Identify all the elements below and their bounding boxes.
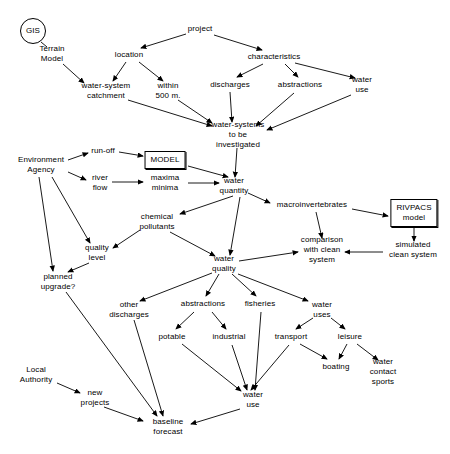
node-water-quality[interactable]: water quality bbox=[212, 254, 236, 274]
node-industrial[interactable]: industrial bbox=[212, 332, 245, 342]
edge-water-quality-to-abstractions-bot bbox=[206, 274, 219, 296]
node-river-flow[interactable]: river flow bbox=[92, 173, 108, 193]
node-abstractions-bot[interactable]: abstractions bbox=[181, 299, 225, 309]
edge-macroinvertebrates-to-rivpacs-model bbox=[352, 209, 388, 216]
node-planned-upgrade[interactable]: planned upgrade? bbox=[41, 272, 76, 292]
node-fisheries[interactable]: fisheries bbox=[245, 299, 276, 309]
edge-chemical-pollutants-to-water-quality bbox=[170, 232, 215, 256]
edge-project-to-characteristics bbox=[214, 35, 262, 50]
edge-local-authority-to-new-projects bbox=[57, 383, 80, 393]
edge-water-uses-to-leisure bbox=[331, 318, 345, 329]
edge-environment-agency-to-river-flow bbox=[68, 172, 86, 180]
edge-water-quality-to-water-uses bbox=[238, 274, 308, 301]
node-model[interactable]: MODEL bbox=[145, 151, 186, 169]
node-water-uses[interactable]: water uses bbox=[312, 300, 332, 320]
edge-water-uses-to-transport bbox=[296, 318, 313, 329]
edge-project-to-location bbox=[141, 34, 186, 48]
edge-potable-to-water-use-bot bbox=[182, 344, 241, 391]
node-abstractions-top[interactable]: abstractions bbox=[278, 80, 322, 90]
node-water-quantity[interactable]: water quantity bbox=[220, 176, 249, 196]
node-water-systems-investigated[interactable]: water-systems to be investigated bbox=[212, 120, 265, 150]
edge-characteristics-to-water-use-top bbox=[295, 63, 355, 78]
node-quality-level[interactable]: quality level bbox=[85, 243, 109, 263]
edge-location-to-within-500m bbox=[139, 62, 163, 81]
edge-industrial-to-water-use-bot bbox=[232, 345, 247, 390]
node-macroinvertebrates[interactable]: macroinvertebrates bbox=[277, 200, 347, 210]
node-water-use-bot[interactable]: water use bbox=[243, 390, 263, 410]
node-chemical-pollutants[interactable]: chemical pollutants bbox=[139, 212, 174, 232]
node-location[interactable]: location bbox=[115, 50, 143, 60]
edge-water-use-top-to-water-systems-investigated bbox=[267, 95, 351, 130]
node-local-authority[interactable]: Local Authority bbox=[20, 365, 52, 385]
edge-water-quality-to-comparison-clean bbox=[239, 252, 298, 261]
edge-transport-to-boating bbox=[300, 344, 327, 359]
node-new-projects[interactable]: new projects bbox=[81, 388, 110, 408]
edge-leisure-to-boating bbox=[339, 344, 347, 359]
node-gis[interactable]: GIS bbox=[20, 18, 46, 44]
diagram-canvas: GISTerrain Modelprojectlocationcharacter… bbox=[0, 0, 450, 454]
edge-water-use-bot-to-baseline-forecast bbox=[191, 409, 240, 424]
node-rivpacs-model[interactable]: RIVPACS model bbox=[390, 199, 437, 227]
node-other-discharges[interactable]: other discharges bbox=[109, 300, 149, 320]
node-baseline-forecast[interactable]: baseline forecast bbox=[153, 417, 184, 437]
edge-chemical-pollutants-to-quality-level bbox=[113, 230, 140, 248]
edge-water-quality-to-other-discharges bbox=[140, 273, 212, 301]
edge-environment-agency-to-quality-level bbox=[52, 177, 90, 243]
node-project[interactable]: project bbox=[188, 24, 213, 34]
node-simulated-clean[interactable]: simulated clean system bbox=[389, 240, 437, 260]
edge-water-quantity-to-water-quality bbox=[230, 197, 240, 255]
edge-location-to-water-system-catchment bbox=[113, 62, 126, 81]
node-water-contact-sports[interactable]: water contact sports bbox=[370, 357, 397, 387]
edge-water-systems-investigated-to-water-quantity bbox=[235, 148, 237, 177]
edge-characteristics-to-abstractions-top bbox=[285, 64, 298, 77]
edge-abstractions-bot-to-potable bbox=[176, 312, 194, 329]
edge-quality-level-to-planned-upgrade bbox=[68, 263, 89, 272]
node-within-500m[interactable]: within 500 m. bbox=[155, 81, 180, 101]
node-water-use-top[interactable]: water use bbox=[352, 75, 372, 95]
node-comparison-clean[interactable]: comparison with clean system bbox=[301, 235, 343, 265]
edge-within-500m-to-water-systems-investigated bbox=[178, 100, 212, 123]
node-run-off[interactable]: run-off bbox=[91, 146, 115, 156]
edge-water-quantity-to-chemical-pollutants bbox=[180, 196, 233, 214]
edge-new-projects-to-baseline-forecast bbox=[104, 407, 143, 421]
node-terrain-model[interactable]: Terrain Model bbox=[39, 44, 64, 64]
node-water-system-catchment[interactable]: water-system catchment bbox=[82, 81, 131, 101]
edge-characteristics-to-discharges bbox=[237, 64, 263, 77]
node-potable[interactable]: potable bbox=[159, 332, 186, 342]
edge-environment-agency-to-planned-upgrade bbox=[39, 177, 53, 271]
node-characteristics[interactable]: characteristics bbox=[248, 52, 301, 62]
edge-water-quantity-to-macroinvertebrates bbox=[248, 193, 270, 203]
node-discharges[interactable]: discharges bbox=[210, 80, 250, 90]
node-leisure[interactable]: leisure bbox=[338, 332, 362, 342]
node-boating[interactable]: boating bbox=[323, 362, 350, 372]
edge-run-off-to-model bbox=[119, 152, 143, 156]
edge-water-quality-to-fisheries bbox=[232, 274, 256, 296]
edge-fisheries-to-water-use-bot bbox=[255, 312, 261, 390]
node-transport[interactable]: transport bbox=[275, 332, 307, 342]
edge-discharges-to-water-systems-investigated bbox=[230, 92, 232, 122]
edge-environment-agency-to-run-off bbox=[68, 153, 88, 160]
node-maxima-minima[interactable]: maxima minima bbox=[151, 173, 180, 193]
node-environment-agency[interactable]: Environment Agency bbox=[18, 155, 64, 175]
edge-abstractions-bot-to-industrial bbox=[212, 312, 226, 329]
edge-water-system-catchment-to-water-systems-investigated bbox=[128, 100, 212, 126]
